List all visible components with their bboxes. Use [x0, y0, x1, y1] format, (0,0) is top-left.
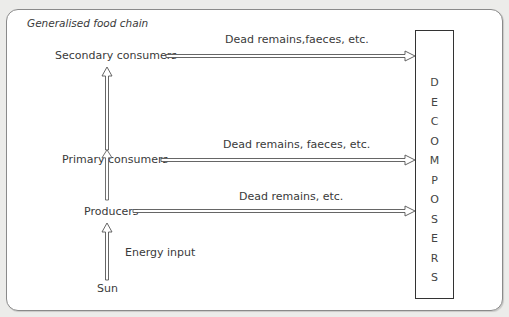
arrow-right-icon — [166, 51, 415, 61]
arrow-up-icon — [102, 67, 112, 150]
arrow-up-icon — [102, 150, 112, 200]
decomposers-box: D E C O M P O S E R S — [415, 30, 454, 299]
decomposers-label: D E C O M P O S E R S — [416, 73, 453, 288]
arrow-right-icon — [133, 206, 415, 216]
arrow-up-icon — [102, 223, 112, 280]
arrow-right-icon — [161, 155, 415, 165]
